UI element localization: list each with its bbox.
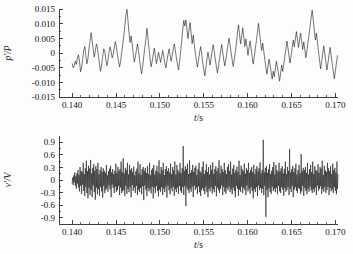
data-series-line [72, 9, 337, 81]
y-tick-label: 0.3 [44, 163, 56, 173]
chart-panel-velocity: 0.1400.1450.1500.1550.1600.1650.1700.90.… [0, 127, 353, 254]
y-tick-label: -0.005 [32, 63, 56, 73]
y-tick-label: 0 [51, 175, 56, 185]
velocity-fluctuation-chart: 0.1400.1450.1500.1550.1600.1650.1700.90.… [0, 127, 353, 254]
x-tick-label: 0.155 [194, 100, 215, 110]
x-tick-label: 0.165 [281, 100, 302, 110]
x-tick-label: 0.140 [62, 227, 83, 237]
y-tick-label: 0.9 [44, 137, 56, 147]
x-tick-label: 0.150 [150, 227, 171, 237]
x-tick-label: 0.145 [106, 100, 127, 110]
data-series-line [72, 140, 338, 217]
axis-spines [59, 9, 338, 97]
x-tick-label: 0.155 [194, 227, 215, 237]
y-tick-label: 0.6 [44, 150, 56, 160]
x-tick-label: 0.160 [238, 100, 259, 110]
y-tick-label: 0.010 [35, 19, 56, 29]
y-tick-label: -0.010 [32, 78, 56, 88]
y-tick-label: 0 [51, 48, 56, 58]
pressure-fluctuation-chart: 0.1400.1450.1500.1550.1600.1650.1700.015… [0, 0, 353, 127]
x-tick-label: 0.160 [238, 227, 259, 237]
x-axis-title: t/s [194, 240, 203, 250]
y-tick-label: -0.6 [41, 200, 56, 210]
y-tick-label: 0.015 [35, 4, 56, 14]
x-axis-title: t/s [194, 113, 203, 123]
y-tick-label: -0.3 [41, 188, 56, 198]
x-tick-label: 0.165 [281, 227, 302, 237]
y-axis-title: p'/P [3, 45, 13, 61]
y-tick-label: 0.005 [35, 34, 56, 44]
y-tick-label: -0.9 [41, 213, 56, 223]
x-tick-label: 0.140 [62, 100, 83, 110]
y-axis-title: v'/V [3, 171, 13, 187]
y-tick-label: -0.015 [32, 92, 56, 102]
x-tick-label: 0.170 [325, 100, 346, 110]
x-tick-label: 0.150 [150, 100, 171, 110]
x-tick-label: 0.170 [325, 227, 346, 237]
figure-container: 0.1400.1450.1500.1550.1600.1650.1700.015… [0, 0, 353, 254]
x-tick-label: 0.145 [106, 227, 127, 237]
chart-panel-pressure: 0.1400.1450.1500.1550.1600.1650.1700.015… [0, 0, 353, 127]
